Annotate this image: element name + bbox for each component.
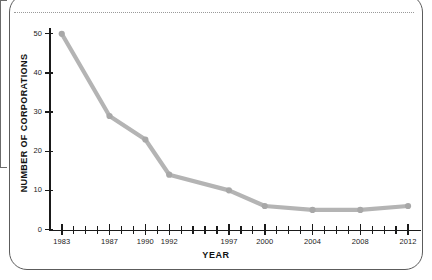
data-point-marker: [309, 207, 315, 213]
line-chart: 01020304050 1983198719901992199720002004…: [0, 0, 432, 280]
x-axis-title: YEAR: [0, 250, 432, 260]
data-point-marker: [106, 113, 112, 119]
chart-screenshot: 01020304050 1983198719901992199720002004…: [0, 0, 432, 280]
data-point-marker: [405, 203, 411, 209]
series-polyline: [62, 34, 408, 210]
data-point-marker: [226, 187, 232, 193]
data-point-marker: [357, 207, 363, 213]
y-axis-title: NUMBER OF CORPORATIONS: [19, 23, 29, 223]
data-point-marker: [262, 203, 268, 209]
data-point-marker: [59, 31, 65, 37]
data-point-marker: [166, 172, 172, 178]
data-point-marker: [142, 136, 148, 142]
data-series-line: [0, 0, 432, 280]
